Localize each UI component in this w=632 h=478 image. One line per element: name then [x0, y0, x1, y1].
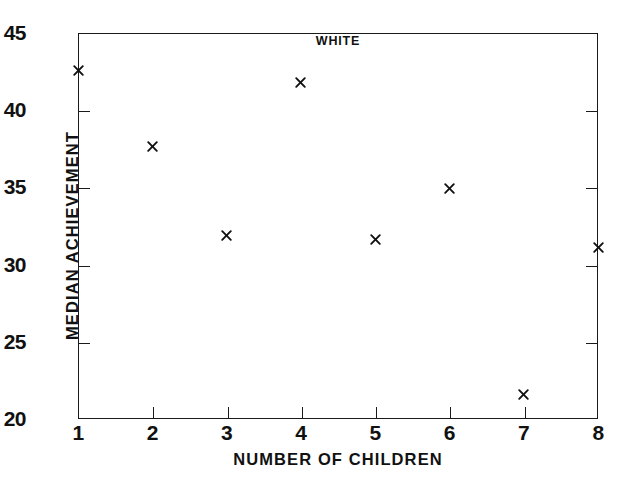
x-axis-tick-label: 6 — [429, 421, 469, 445]
x-axis-tick — [228, 407, 229, 418]
x-axis-tick — [153, 407, 154, 418]
y-axis-title: MEDIAN ACHIEVEMENT — [63, 86, 82, 386]
plot-area — [78, 33, 598, 419]
x-axis-tick-label: 4 — [281, 421, 321, 445]
y-axis-tick-right — [586, 343, 597, 344]
x-axis-tick — [376, 407, 377, 418]
y-axis-tick-label: 40 — [0, 98, 26, 122]
y-axis-tick-label: 30 — [0, 253, 26, 277]
x-axis-tick-label: 2 — [132, 421, 172, 445]
x-axis-tick — [450, 407, 451, 418]
x-axis-title: NUMBER OF CHILDREN — [78, 450, 598, 469]
x-axis-tick-label: 8 — [578, 421, 618, 445]
scatter-plot-figure: WHITE NUMBER OF CHILDREN MEDIAN ACHIEVEM… — [0, 0, 632, 478]
y-axis-tick-label: 25 — [0, 330, 26, 354]
y-axis-tick-label: 20 — [0, 407, 26, 431]
y-axis-tick-right — [586, 266, 597, 267]
x-axis-tick-label: 7 — [504, 421, 544, 445]
y-axis-tick-label: 35 — [0, 175, 26, 199]
chart-title: WHITE — [78, 34, 598, 48]
x-axis-tick-label: 3 — [207, 421, 247, 445]
y-axis-tick-right — [586, 111, 597, 112]
x-axis-tick — [525, 407, 526, 418]
x-axis-tick-label: 1 — [58, 421, 98, 445]
y-axis-tick-label: 45 — [0, 21, 26, 45]
x-axis-tick-label: 5 — [355, 421, 395, 445]
y-axis-tick-right — [586, 188, 597, 189]
x-axis-tick — [302, 407, 303, 418]
